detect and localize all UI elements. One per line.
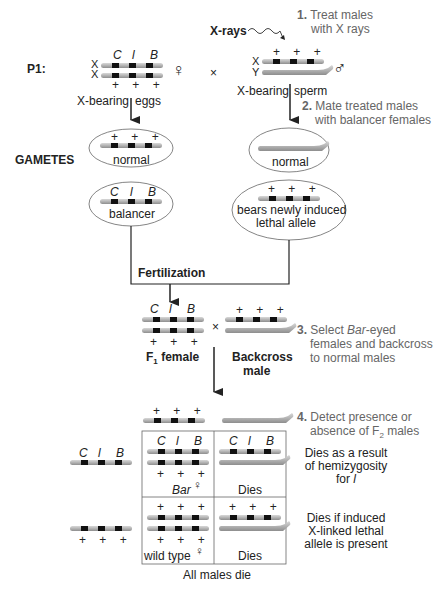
balancer-locus-B: B <box>148 185 156 199</box>
step-3-line-3: to normal males <box>310 351 395 365</box>
row1-note-3: for l <box>296 472 396 486</box>
xrays-label: X-rays <box>210 24 247 38</box>
male-symbol-icon: ♂ <box>333 58 347 79</box>
egg-normal-plus: + + + <box>111 130 164 144</box>
step-2-line-2: with balancer females <box>315 113 431 127</box>
cell1-label: Bar <box>172 483 191 497</box>
left-gamete-locus-C: C <box>79 446 88 460</box>
row2-note-2: X-linked lethal <box>290 524 402 538</box>
cell2-locus-C: C <box>229 434 238 448</box>
row1-note-1: Dies as a result <box>296 446 396 460</box>
balancer-locus-C: C <box>110 185 119 199</box>
sperm-lethal-plus: + + + <box>268 182 321 196</box>
locus-C: C <box>113 48 122 62</box>
f1-female-label: F1 female <box>146 350 199 369</box>
sperm-label-right: sperm <box>294 84 327 98</box>
balancer-locus-l: l <box>130 185 133 199</box>
cell1-female-symbol-icon: ♀ <box>193 478 202 492</box>
left-gamete-plus: + + + <box>79 533 132 547</box>
footer-all-males-die: All males die <box>183 568 251 582</box>
row2-note-3: allele is present <box>290 537 402 551</box>
fertilization-label: Fertilization <box>138 266 205 280</box>
backcross-label-2: male <box>243 364 270 378</box>
cross-symbol: × <box>210 66 217 80</box>
step-4-line-2: absence of F2 males <box>310 424 419 443</box>
cell3-plus-top: + + + <box>157 500 210 514</box>
cell3-label: wild type <box>144 549 191 563</box>
step-1-line-2: with X rays <box>311 22 370 36</box>
step-2: 2. Mate treated males <box>302 99 418 113</box>
cell1-locus-C: C <box>157 434 166 448</box>
p1-label: P1: <box>27 62 46 76</box>
cell1-locus-l: l <box>176 434 179 448</box>
cell4-plus-top: + + + <box>229 500 282 514</box>
f1-locus-B: B <box>187 302 195 316</box>
cell2-label: Dies <box>238 483 262 497</box>
row1-note-2: of hemizygosity <box>290 459 402 473</box>
cell3-female-symbol-icon: ♀ <box>195 544 204 558</box>
female-symbol-icon: ♀ <box>172 60 186 81</box>
locus-l: l <box>132 48 135 62</box>
row2-note-1: Dies if induced <box>290 511 402 525</box>
egg-balancer-label: balancer <box>109 207 155 221</box>
sperm-normal-label: normal <box>272 155 309 169</box>
gametes-label: GAMETES <box>15 153 74 167</box>
eggs-label-left: X-bearing <box>77 94 129 108</box>
left-gamete-locus-B: B <box>116 446 124 460</box>
p1-male-chromosomes <box>262 59 333 75</box>
sperm-lethal-label-2: lethal allele <box>256 216 316 230</box>
diagram-graphics <box>0 0 433 589</box>
eggs-label-right: eggs <box>135 94 161 108</box>
p1-female-chromosomes <box>101 63 163 78</box>
f1-plus: + + + <box>150 335 203 349</box>
backcross-label-1: Backcross <box>232 350 293 364</box>
f1-locus-C: C <box>150 302 159 316</box>
p1-male-plus: + + + <box>273 45 326 59</box>
step-3-line-2: females and backcross <box>310 337 433 351</box>
step-1: 1. Treat males <box>297 8 373 22</box>
step-4: 4. Detect presence or <box>297 410 412 424</box>
egg-normal-label: normal <box>113 153 150 167</box>
cell2-locus-l: l <box>248 434 251 448</box>
cell1-locus-B: B <box>194 434 202 448</box>
backcross-male-plus: + + + <box>236 303 289 317</box>
step-3: 3. Select Bar-eyed <box>297 323 396 337</box>
sperm-label-left: X-bearing <box>237 84 289 98</box>
p1-female-plus: + + + <box>112 78 165 92</box>
cell2-locus-B: B <box>266 434 274 448</box>
cell4-label: Dies <box>238 549 262 563</box>
f1-locus-l: l <box>169 302 172 316</box>
f1-cross-symbol: × <box>212 320 219 334</box>
locus-B: B <box>150 48 158 62</box>
xrays-wave-icon <box>248 29 280 34</box>
left-gamete-locus-l: l <box>98 446 101 460</box>
chr-Y-male: Y <box>252 65 259 79</box>
punnett-top-plus: + + + <box>153 404 206 418</box>
chr-X-2: X <box>91 67 98 81</box>
sperm-lethal-label-1: bears newly induced <box>237 203 346 217</box>
